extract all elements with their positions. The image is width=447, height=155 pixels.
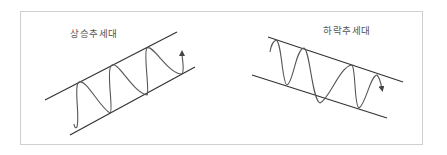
downtrend-price-wave <box>270 40 382 108</box>
trend-channels-diagram <box>0 0 447 155</box>
downtrend-resistance-line <box>268 37 403 82</box>
uptrend-channel <box>45 32 195 135</box>
uptrend-start-hook <box>74 124 77 128</box>
uptrend-price-wave <box>77 48 184 127</box>
downtrend-channel <box>252 37 403 118</box>
downtrend-support-line <box>252 75 387 118</box>
